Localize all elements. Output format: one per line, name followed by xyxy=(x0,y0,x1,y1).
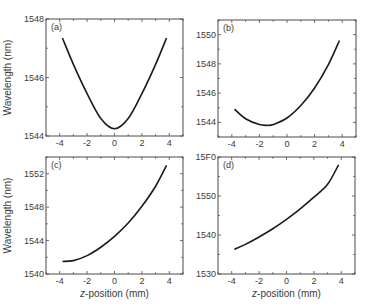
panel-label: (c) xyxy=(51,160,62,170)
x-tick-label: 0 xyxy=(112,276,117,286)
y-tick-label: 15F0 xyxy=(195,152,216,162)
y-tick-label: 1548 xyxy=(196,59,216,69)
data-curve xyxy=(234,165,338,250)
x-tick-label: 2 xyxy=(139,276,144,286)
x-tick-label: 4 xyxy=(167,276,172,286)
x-tick-label: 2 xyxy=(311,276,316,286)
x-axis-title: z-position (mm) xyxy=(79,288,149,299)
y-tick-label: 1544 xyxy=(196,117,216,127)
y-tick-label: 1546 xyxy=(196,88,216,98)
x-tick-label: 2 xyxy=(312,139,317,149)
x-tick-label: -4 xyxy=(56,138,64,148)
y-tick-label: 1550 xyxy=(196,191,216,201)
chart-panel-a: -4-2024154415461548(a)Wavelength (nm) xyxy=(2,14,183,148)
y-axis-title: Wavelength (nm) xyxy=(2,40,13,116)
y-tick-label: 1540 xyxy=(24,269,44,279)
y-tick-label: 1530 xyxy=(196,269,216,279)
panel-label: (b) xyxy=(223,23,234,33)
y-tick-label: 1546 xyxy=(24,73,44,83)
x-tick-label: -4 xyxy=(56,276,64,286)
data-curve xyxy=(235,40,340,125)
plot-frame xyxy=(218,157,355,274)
figure: -4-2024154415461548(a)Wavelength (nm)-4-… xyxy=(0,0,367,306)
y-tick-label: 1548 xyxy=(24,202,44,212)
plot-frame xyxy=(46,19,183,136)
panel-label: (d) xyxy=(223,160,234,170)
x-tick-label: -2 xyxy=(83,276,91,286)
y-tick-label: 1544 xyxy=(24,236,44,246)
x-tick-label: 4 xyxy=(167,138,172,148)
x-tick-label: 4 xyxy=(339,276,344,286)
x-tick-label: -2 xyxy=(255,139,263,149)
y-axis-title: Wavelength (nm) xyxy=(2,178,13,254)
data-curve xyxy=(62,38,166,129)
x-tick-label: 4 xyxy=(340,139,345,149)
data-curve xyxy=(62,165,166,261)
x-axis-title: z-position (mm) xyxy=(251,288,321,299)
x-tick-label: 0 xyxy=(284,139,289,149)
chart-panel-c: -4-20241540154415481552(c)Wavelength (nm… xyxy=(2,157,183,299)
x-tick-label: -4 xyxy=(228,139,236,149)
y-tick-label: 1544 xyxy=(24,131,44,141)
y-tick-label: 1552 xyxy=(24,169,44,179)
x-tick-label: -2 xyxy=(255,276,263,286)
x-tick-label: 2 xyxy=(139,138,144,148)
chart-panel-b: -4-20241544154615481550(b) xyxy=(196,20,356,149)
x-tick-label: 0 xyxy=(112,138,117,148)
y-tick-label: 1550 xyxy=(196,30,216,40)
chart-panel-d: -4-202415301540155015F0(d)z-position (mm… xyxy=(195,152,355,299)
x-tick-label: -4 xyxy=(228,276,236,286)
x-tick-label: -2 xyxy=(83,138,91,148)
x-tick-label: 0 xyxy=(284,276,289,286)
plot-frame xyxy=(218,20,356,137)
y-tick-label: 1540 xyxy=(196,230,216,240)
y-tick-label: 1548 xyxy=(24,14,44,24)
panel-label: (a) xyxy=(51,22,62,32)
